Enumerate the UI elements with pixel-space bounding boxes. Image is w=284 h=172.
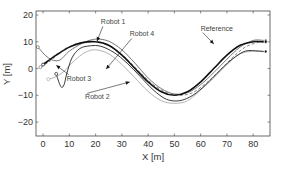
x-tick-label: 40	[143, 139, 153, 149]
annotation-robot-3: Robot 3	[67, 75, 92, 82]
end-marker	[265, 41, 267, 43]
y-tick-label: 0	[28, 64, 33, 74]
y-tick-label: 20	[23, 10, 33, 20]
x-tick-label: 0	[41, 139, 46, 149]
start-marker	[36, 46, 39, 49]
annotation-robot-1: Robot 1	[101, 18, 126, 25]
start-marker	[55, 72, 58, 75]
arrowhead-icon	[125, 81, 129, 84]
annotation-reference: Reference	[201, 25, 233, 32]
series-lines	[36, 39, 266, 103]
x-tick-label: 70	[222, 139, 232, 149]
x-tick-label: 80	[248, 139, 258, 149]
end-marker	[265, 51, 267, 53]
annotation-robot-4: Robot 4	[130, 30, 155, 37]
x-tick-label: 10	[64, 139, 74, 149]
x-tick-label: 20	[91, 139, 101, 149]
y-tick-label: −20	[18, 117, 33, 127]
series-line-reference	[43, 42, 264, 96]
x-tick-label: 50	[169, 139, 179, 149]
annotation-robot-2: Robot 2	[85, 93, 110, 100]
x-axis-label: X [m]	[142, 151, 164, 162]
start-marker	[39, 66, 42, 69]
start-marker	[42, 63, 45, 66]
annotation-arrow	[87, 82, 130, 93]
y-tick-label: 10	[23, 37, 33, 47]
x-tick-label: 60	[196, 139, 206, 149]
start-marker	[47, 78, 50, 81]
series-line-robot-1	[38, 39, 264, 94]
trajectory-chart: Robot 1Robot 4ReferenceRobot 3Robot 2 01…	[0, 0, 284, 172]
series-line-robot-4	[41, 41, 264, 95]
y-axis-label: Y [m]	[1, 63, 12, 85]
x-tick-label: 30	[117, 139, 127, 149]
arrowhead-icon	[56, 65, 60, 69]
y-tick-label: −10	[18, 90, 33, 100]
